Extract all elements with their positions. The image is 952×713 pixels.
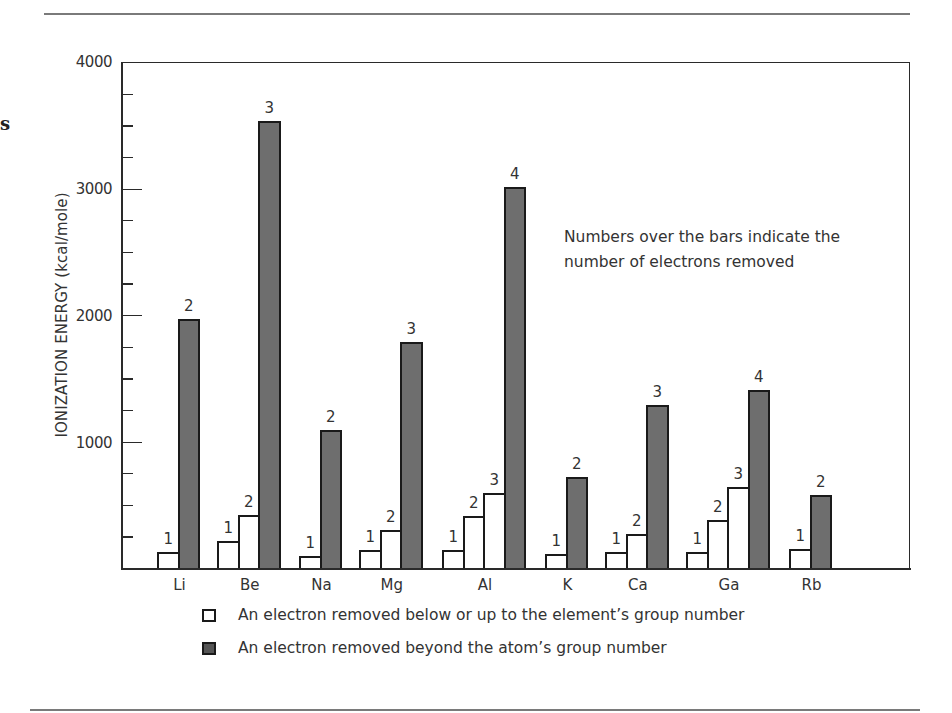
bar-k-1 [545, 554, 568, 568]
bar-ga-4 [748, 390, 771, 568]
bar-count-label: 2 [809, 473, 833, 491]
bar-li-2 [178, 319, 201, 568]
y-minor-tick [122, 347, 133, 348]
bar-count-label: 2 [177, 297, 201, 315]
x-label-ca: Ca [613, 576, 663, 594]
bar-ga-1 [686, 552, 709, 568]
bar-al-1 [442, 550, 465, 568]
bar-ca-2 [626, 534, 649, 568]
y-minor-tick [122, 157, 133, 158]
y-tick-label-4000: 4000 [52, 53, 112, 71]
bar-al-3 [483, 493, 506, 568]
x-label-li: Li [155, 576, 205, 594]
y-minor-tick [122, 94, 133, 95]
y-minor-tick [122, 536, 133, 537]
x-label-mg: Mg [367, 576, 417, 594]
white-swatch-icon [202, 609, 216, 622]
bar-na-1 [299, 556, 322, 568]
bar-count-label: 3 [399, 320, 423, 338]
bar-mg-2 [380, 530, 403, 568]
bar-be-1 [217, 541, 240, 568]
bottom-rule [30, 709, 920, 711]
bar-count-label: 4 [747, 368, 771, 386]
bar-count-label: 2 [319, 408, 343, 426]
y-minor-tick [122, 473, 133, 474]
bar-ca-1 [605, 552, 628, 568]
legend-label: An electron removed below or up to the e… [238, 606, 745, 624]
bar-mg-1 [359, 550, 382, 568]
bar-count-label: 4 [503, 165, 527, 183]
bar-be-3 [258, 121, 281, 568]
y-major-tick [122, 62, 142, 63]
y-minor-tick [122, 125, 133, 126]
bar-ca-3 [646, 405, 669, 568]
bar-count-label: 3 [645, 383, 669, 401]
margin-fragment-text: s [0, 113, 10, 134]
x-label-al: Al [460, 576, 510, 594]
bar-al-2 [463, 516, 486, 568]
y-major-tick [122, 189, 142, 190]
bar-mg-3 [400, 342, 423, 568]
bar-count-label: 3 [257, 99, 281, 117]
x-axis [121, 568, 911, 570]
dark-swatch-icon [202, 642, 216, 655]
y-major-tick [122, 442, 142, 443]
annotation-line-2: number of electrons removed [564, 250, 840, 275]
x-label-be: Be [225, 576, 275, 594]
y-minor-tick [122, 252, 133, 253]
bar-be-2 [238, 515, 261, 568]
chart-annotation: Numbers over the bars indicate the numbe… [564, 225, 840, 275]
bar-na-2 [320, 430, 343, 568]
bar-rb-1 [789, 549, 812, 568]
legend-label: An electron removed beyond the atom’s gr… [238, 639, 667, 657]
y-minor-tick [122, 410, 133, 411]
y-major-tick [122, 315, 142, 316]
y-axis-title: IONIZATION ENERGY (kcal/mole) [53, 192, 71, 437]
top-rule [44, 13, 910, 15]
x-label-k: K [543, 576, 593, 594]
bar-count-label: 2 [565, 455, 589, 473]
annotation-line-1: Numbers over the bars indicate the [564, 225, 840, 250]
bar-ga-3 [727, 487, 750, 568]
bar-ga-2 [707, 520, 730, 568]
y-minor-tick [122, 283, 133, 284]
bar-al-4 [504, 187, 527, 568]
y-minor-tick [122, 220, 133, 221]
x-label-na: Na [297, 576, 347, 594]
y-minor-tick [122, 505, 133, 506]
bar-li-1 [157, 552, 180, 568]
bar-k-2 [566, 477, 589, 568]
y-minor-tick [122, 378, 133, 379]
x-label-rb: Rb [787, 576, 837, 594]
x-label-ga: Ga [704, 576, 754, 594]
bar-rb-2 [810, 495, 833, 568]
